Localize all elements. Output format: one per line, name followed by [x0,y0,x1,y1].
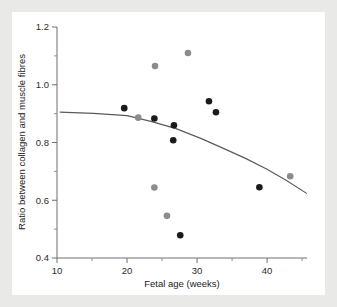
data-point [170,137,177,144]
x-tick-label: 20 [122,265,133,276]
scatter-plot: 0.40.60.81.01.2 10203040 Fetal age (week… [12,12,325,295]
data-point [164,213,171,220]
x-tick-label: 40 [262,265,273,276]
data-point [177,232,184,239]
x-axis-ticks [57,258,302,263]
y-tick-label: 0.4 [36,252,49,263]
y-tick-label: 1.2 [36,21,49,32]
data-point [256,184,263,191]
data-point [152,63,159,70]
data-point [185,50,192,57]
y-axis-tick-labels: 0.40.60.81.01.2 [36,21,49,263]
data-point [121,105,128,112]
x-axis-tick-labels: 10203040 [52,265,273,276]
y-tick-label: 0.8 [36,137,49,148]
data-point [206,98,213,105]
y-tick-label: 1.0 [36,79,49,90]
data-point [213,109,220,116]
x-axis-title: Fetal age (weeks) [144,278,220,289]
data-points-group [121,50,294,239]
x-tick-label: 30 [192,265,203,276]
y-axis-title: Ratio between collagen and muscle fibres [16,54,27,230]
y-axis-ticks [52,27,57,258]
data-point [171,122,178,129]
figure-container: 0.40.60.81.01.2 10203040 Fetal age (week… [0,0,337,307]
x-tick-label: 10 [52,265,63,276]
y-tick-label: 0.6 [36,195,49,206]
data-point [287,173,294,180]
data-point [135,114,142,121]
data-point [151,115,158,122]
fitted-trend-line [60,112,307,193]
plot-card: 0.40.60.81.01.2 10203040 Fetal age (week… [12,12,325,295]
data-point [151,184,158,191]
axes-group [57,27,307,258]
